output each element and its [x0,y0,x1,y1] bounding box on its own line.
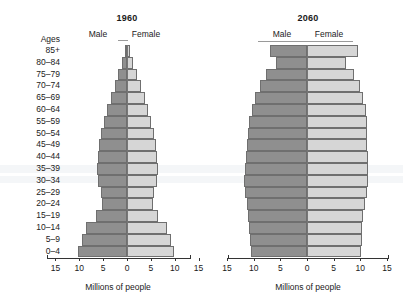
bar-female [127,246,174,258]
x-axis-tick [103,258,104,261]
plot-area-2060 [228,45,388,258]
x-axis-tick-label: 0 [117,263,137,273]
pyramid-band [228,128,388,140]
bar-female [127,104,148,116]
pyramid-band [228,139,388,151]
bar-male [248,210,307,222]
x-axis-tick [280,258,281,261]
center-axis-line [127,45,128,257]
bar-female [307,80,360,92]
x-axis-tick-label: 15 [217,263,237,273]
x-axis-tick-label: 15 [377,263,397,273]
bar-male [270,45,307,57]
bar-male [98,175,127,187]
pyramid-band [47,210,190,222]
bar-female [127,139,156,151]
pyramid-band [47,246,190,258]
x-axis-tick-label: 10 [165,263,185,273]
x-axis-tick [127,258,128,261]
male-label-1960: Male [78,29,118,39]
bar-female [127,116,151,128]
pyramid-band [47,116,190,128]
bar-female [307,116,367,128]
x-axis-tick-label: 10 [69,263,89,273]
bar-female [307,69,354,81]
bar-male [96,210,127,222]
bar-male [244,175,307,187]
pyramid-band [228,222,388,234]
legend-underline-1960 [118,40,128,41]
bar-male [104,116,127,128]
x-axis-tick [151,258,152,261]
pyramid-band [228,151,388,163]
female-label-2060: Female [306,29,352,39]
chart-title-1960: 1960 [87,13,167,23]
pyramid-band [47,234,190,246]
bar-female [307,151,368,163]
x-axis-tick-label: 10 [350,263,370,273]
bar-female [307,246,361,258]
x-axis-2060 [228,258,389,259]
x-axis-tick [334,258,335,261]
pyramid-band [47,80,190,92]
ages-header: Ages [18,33,62,45]
pyramid-band [47,139,190,151]
bar-male [115,80,127,92]
bar-female [127,210,158,222]
bar-female [127,69,137,81]
bar-male [97,163,127,175]
female-label-1960: Female [123,29,169,39]
x-axis-tick-label: 15 [189,263,209,273]
male-label-2060: Male [262,29,302,39]
pyramid-band [47,128,190,140]
pyramid-band [47,222,190,234]
bar-female [307,175,368,187]
pyramid-band [47,187,190,199]
x-axis-tick-label: 5 [93,263,113,273]
pyramid-band [47,151,190,163]
x-axis-tick [360,258,361,261]
bar-male [255,92,307,104]
pyramid-band [228,246,388,258]
pyramid-band [228,234,388,246]
bar-female [127,92,145,104]
pyramid-band [47,45,190,57]
pyramid-band [47,57,190,69]
pyramid-band [228,175,388,187]
x-axis-caption-2060: Millions of people [258,282,358,292]
bar-male [260,80,307,92]
bar-male [82,234,127,246]
bar-male [99,139,127,151]
pyramid-band [228,45,388,57]
x-axis-tick-label: 10 [244,263,264,273]
bar-male [118,69,127,81]
bar-female [307,222,362,234]
x-axis-tick [79,258,80,261]
bar-male [252,104,307,116]
axis-endcap-right-1960 [190,255,191,259]
bar-female [127,234,171,246]
pyramid-band [47,69,190,81]
bar-male [245,187,307,199]
bar-male [111,92,127,104]
x-axis-tick-label: 15 [45,263,65,273]
bar-female [307,45,358,57]
bar-female [127,151,157,163]
center-axis-line [307,45,308,257]
bar-female [127,175,157,187]
bar-female [307,104,366,116]
bar-female [307,187,367,199]
pyramid-band [228,80,388,92]
bar-female [307,198,365,210]
axis-endcap-left-1960 [47,255,48,259]
x-axis-1960 [47,258,191,259]
pyramid-band [228,92,388,104]
bar-male [250,234,307,246]
pyramid-band [228,69,388,81]
bar-male [249,116,307,128]
x-axis-caption-1960: Millions of people [68,282,168,292]
pyramid-band [228,57,388,69]
bar-male [107,104,127,116]
bar-female [127,128,154,140]
bar-male [246,151,307,163]
